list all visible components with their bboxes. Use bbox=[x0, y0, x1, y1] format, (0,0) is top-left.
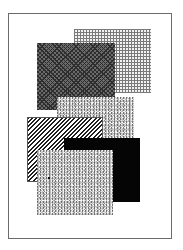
front-speckle-panel bbox=[37, 150, 113, 215]
speck-mark bbox=[48, 177, 50, 179]
